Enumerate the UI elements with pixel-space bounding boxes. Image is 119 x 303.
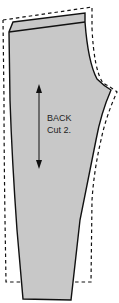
pattern-piece-back [9, 13, 111, 300]
pattern-diagram: BACK Cut 2. [0, 0, 119, 303]
piece-name-label: BACK [47, 113, 72, 123]
cut-instruction-label: Cut 2. [47, 125, 71, 135]
